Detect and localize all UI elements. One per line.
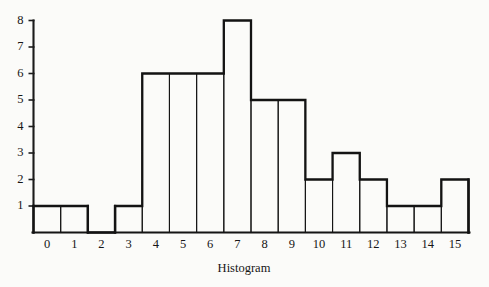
y-tick-label-5: 5 xyxy=(17,92,23,106)
y-tick-label-3: 3 xyxy=(17,145,23,159)
bar-10 xyxy=(305,180,332,233)
bar-11 xyxy=(333,153,360,233)
histogram-chart: 12345678 0123456789101112131415 Histogra… xyxy=(0,0,489,287)
x-tick-label-5: 5 xyxy=(180,237,186,251)
bar-13 xyxy=(387,206,414,233)
bar-6 xyxy=(197,74,224,233)
y-tick-label-7: 7 xyxy=(17,39,23,53)
y-tick-label-6: 6 xyxy=(17,66,23,80)
x-tick-label-6: 6 xyxy=(207,237,213,251)
bar-14 xyxy=(414,206,441,233)
bar-0 xyxy=(34,206,61,233)
x-tick-label-2: 2 xyxy=(98,237,104,251)
x-tick-label-3: 3 xyxy=(126,237,132,251)
histogram-figure: 12345678 0123456789101112131415 Histogra… xyxy=(0,0,489,287)
x-tick-label-14: 14 xyxy=(421,237,434,251)
x-tick-label-7: 7 xyxy=(234,237,240,251)
bar-12 xyxy=(360,180,387,233)
bar-3 xyxy=(115,206,142,233)
x-tick-label-12: 12 xyxy=(367,237,380,251)
y-tick-label-2: 2 xyxy=(17,172,23,186)
x-tick-label-0: 0 xyxy=(44,237,50,251)
y-tick-labels: 12345678 xyxy=(17,13,24,213)
bar-15 xyxy=(441,180,468,233)
y-tick-label-8: 8 xyxy=(17,13,23,27)
y-tick-label-1: 1 xyxy=(17,198,23,212)
x-tick-label-1: 1 xyxy=(71,237,77,251)
x-tick-label-9: 9 xyxy=(289,237,295,251)
x-tick-labels: 0123456789101112131415 xyxy=(44,237,461,251)
x-tick-label-15: 15 xyxy=(449,237,462,251)
bar-4 xyxy=(142,74,169,233)
bar-9 xyxy=(278,100,305,233)
bar-7 xyxy=(224,21,251,233)
x-axis-title: Histogram xyxy=(218,261,271,275)
x-tick-label-10: 10 xyxy=(313,237,326,251)
bar-5 xyxy=(169,74,196,233)
x-tick-label-4: 4 xyxy=(153,237,160,251)
y-tick-label-4: 4 xyxy=(17,119,24,133)
bar-8 xyxy=(251,100,278,233)
x-tick-label-8: 8 xyxy=(261,237,267,251)
x-tick-label-13: 13 xyxy=(394,237,407,251)
y-axis xyxy=(29,21,35,233)
bar-1 xyxy=(61,206,88,233)
x-tick-label-11: 11 xyxy=(340,237,352,251)
